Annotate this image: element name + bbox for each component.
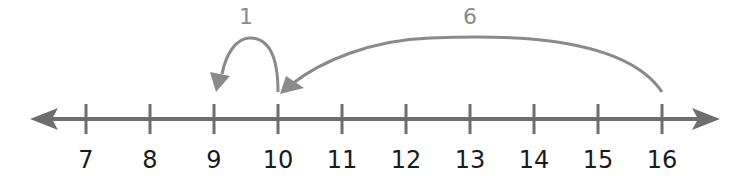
tick-label: 13 <box>455 146 486 174</box>
tick-label: 9 <box>206 146 221 174</box>
number-line-diagram: 7 8 9 10 11 12 13 14 15 16 6 1 <box>0 0 741 187</box>
tick-label: 16 <box>647 146 678 174</box>
jump-label-1: 1 <box>239 4 253 29</box>
jump-arc-6 <box>292 37 662 92</box>
tick-label: 15 <box>583 146 614 174</box>
tick-label: 8 <box>142 146 157 174</box>
jump-arc-1 <box>222 38 278 92</box>
tick-label: 14 <box>519 146 550 174</box>
number-line-svg: 7 8 9 10 11 12 13 14 15 16 6 1 <box>0 0 741 187</box>
tick-label: 12 <box>391 146 422 174</box>
tick-label: 11 <box>327 146 358 174</box>
tick-label: 10 <box>263 146 294 174</box>
tick-label: 7 <box>78 146 93 174</box>
jump-arrowhead-icon <box>210 72 230 92</box>
jump-label-6: 6 <box>463 4 477 29</box>
